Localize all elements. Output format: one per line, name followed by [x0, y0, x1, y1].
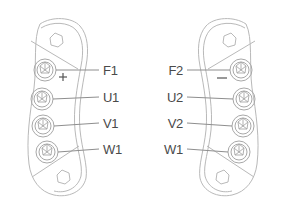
left-terminal-block: F1 U1 V1 W1: [28, 19, 122, 196]
terminal-label-v2: V2: [168, 116, 183, 131]
mounting-hole-icon: [50, 33, 63, 47]
terminal-block-diagram: F1 U1 V1 W1: [0, 0, 286, 215]
polarity-plus-icon: [59, 73, 67, 81]
screw-terminal-icon[interactable]: [232, 115, 254, 137]
mounting-hole-icon: [57, 170, 70, 184]
terminal-label-u2: U2: [167, 90, 183, 105]
screw-terminal-icon[interactable]: [230, 59, 252, 81]
right-block-outline: [198, 19, 258, 196]
right-block-labels: F2 U2 V2 W1: [164, 63, 183, 157]
terminal-label-f1: F1: [103, 63, 118, 78]
screw-terminal-icon[interactable]: [32, 115, 54, 137]
terminal-label-w1: W1: [103, 142, 122, 157]
terminal-label-f2: F2: [168, 63, 183, 78]
left-block-outline: [28, 19, 88, 196]
mounting-hole-icon: [216, 170, 229, 184]
right-terminal-block: [187, 19, 258, 196]
screw-terminal-icon[interactable]: [34, 59, 56, 81]
leader-line-v2: [187, 123, 232, 126]
terminal-label-w1-right: W1: [164, 142, 183, 157]
screw-terminal-icon[interactable]: [36, 141, 58, 163]
screw-terminal-icon[interactable]: [31, 88, 53, 110]
diagram-canvas: F1 U1 V1 W1: [0, 0, 286, 215]
leader-line-v1: [54, 123, 99, 126]
terminal-label-u1: U1: [103, 90, 119, 105]
screw-terminal-icon[interactable]: [228, 141, 250, 163]
mounting-hole-icon: [223, 33, 236, 47]
terminal-label-v1: V1: [103, 116, 118, 131]
screw-terminal-icon[interactable]: [233, 88, 255, 110]
